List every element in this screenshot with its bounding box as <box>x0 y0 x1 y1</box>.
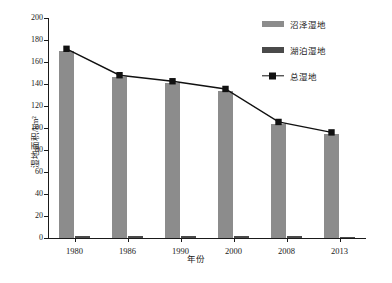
legend-item-total: 总湿地 <box>262 70 326 82</box>
legend-item-lake: 湖泊湿地 <box>262 44 326 56</box>
y-axis-tick-label: 20 <box>35 212 43 220</box>
x-axis-tick <box>128 238 129 242</box>
y-axis-tick <box>44 84 48 85</box>
bar-沼泽湿地-1980 <box>59 51 74 238</box>
bar-湖泊湿地-2013 <box>340 237 355 238</box>
y-axis-tick <box>44 238 48 239</box>
bar-沼泽湿地-1986 <box>112 77 127 238</box>
y-axis-tick <box>44 172 48 173</box>
bar-湖泊湿地-1986 <box>128 236 143 238</box>
y-axis-tick <box>44 194 48 195</box>
legend-label-total: 总湿地 <box>290 70 317 82</box>
y-axis-tick-label: 160 <box>31 58 43 66</box>
bar-沼泽湿地-2013 <box>324 134 339 239</box>
bar-沼泽湿地-2008 <box>271 124 286 238</box>
y-axis-tick-label: 80 <box>35 146 43 154</box>
y-axis-tick-label: 100 <box>31 124 43 132</box>
y-axis-tick <box>44 106 48 107</box>
legend-label-lake: 湖泊湿地 <box>290 44 326 56</box>
y-axis-tick <box>44 40 48 41</box>
legend: 沼泽湿地 湖泊湿地 总湿地 <box>262 18 326 82</box>
wetland-area-chart: 湿地面积/km² 020406080100120140160180200 198… <box>0 0 392 283</box>
y-axis-tick-label: 140 <box>31 80 43 88</box>
legend-swatch-lake-icon <box>262 47 284 53</box>
y-axis-tick <box>44 62 48 63</box>
y-axis-tick-label: 200 <box>31 14 43 22</box>
y-axis-tick <box>44 18 48 19</box>
legend-label-marsh: 沼泽湿地 <box>290 18 326 30</box>
bar-湖泊湿地-2008 <box>287 236 302 238</box>
bar-湖泊湿地-2000 <box>234 236 249 238</box>
x-axis-tick <box>181 238 182 242</box>
bar-沼泽湿地-1990 <box>165 83 180 238</box>
y-axis-tick-label: 180 <box>31 36 43 44</box>
bar-湖泊湿地-1980 <box>75 236 90 238</box>
x-axis-line <box>48 238 366 239</box>
legend-swatch-marsh-icon <box>262 21 284 27</box>
y-axis-line <box>48 18 49 238</box>
y-axis-tick-label: 60 <box>35 168 43 176</box>
x-axis-tick <box>75 238 76 242</box>
bar-湖泊湿地-1990 <box>181 236 196 238</box>
x-axis-title: 年份 <box>0 252 392 264</box>
y-axis-tick <box>44 150 48 151</box>
y-axis-tick <box>44 128 48 129</box>
y-axis-tick-label: 120 <box>31 102 43 110</box>
y-axis-tick <box>44 216 48 217</box>
x-axis-tick <box>234 238 235 242</box>
x-axis-tick <box>287 238 288 242</box>
legend-line-marker-icon <box>262 73 284 79</box>
y-axis-tick-label: 40 <box>35 190 43 198</box>
x-axis-tick <box>340 238 341 242</box>
bar-沼泽湿地-2000 <box>218 91 233 238</box>
legend-item-marsh: 沼泽湿地 <box>262 18 326 30</box>
y-axis-tick-label: 0 <box>39 234 43 242</box>
